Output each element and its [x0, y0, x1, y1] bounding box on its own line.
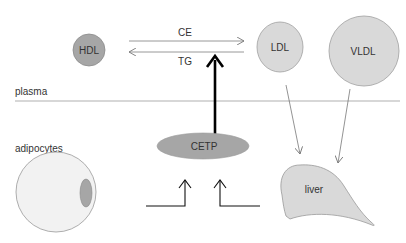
vldl-label: VLDL	[350, 46, 375, 57]
ce-label: CE	[178, 27, 192, 38]
lipoprotein-diagram: HDL CE TG LDL VLDL plasma adipocytes	[0, 0, 406, 243]
hdl-particle: HDL	[73, 34, 105, 66]
ldl-label: LDL	[271, 42, 290, 53]
tg-transfer-arrow: TG	[129, 52, 244, 67]
hdl-label: HDL	[79, 45, 99, 56]
adipocyte-nucleus	[80, 179, 92, 207]
tg-label: TG	[178, 56, 192, 67]
stimulus-arrow-right	[214, 180, 260, 206]
ce-transfer-arrow: CE	[129, 27, 244, 41]
liver-organ: liver	[281, 165, 374, 226]
cetp-action-arrow	[207, 56, 223, 135]
stimulus-arrow-left	[146, 180, 191, 206]
plasma-label: plasma	[15, 86, 48, 97]
adipocyte-cell	[16, 152, 96, 232]
vldl-particle: VLDL	[329, 16, 399, 86]
cetp-label: CETP	[191, 141, 218, 152]
cetp-enzyme: CETP	[157, 133, 249, 159]
vldl-to-liver-arrow	[338, 89, 350, 163]
ldl-to-liver-arrow	[286, 85, 300, 154]
liver-label: liver	[305, 184, 324, 195]
ldl-particle: LDL	[257, 22, 303, 72]
